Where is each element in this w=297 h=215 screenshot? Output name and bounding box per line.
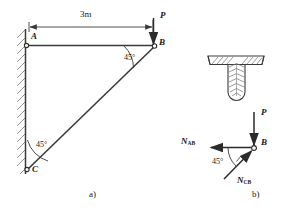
caption-b: b) — [252, 190, 260, 199]
joint-a-pin — [24, 43, 28, 47]
engineering-figure: 3m A B C P 45° 45° a) P B NAB NCB 45° b) — [0, 0, 297, 215]
point-b-label: B — [159, 38, 165, 47]
fbd-force-ncb-subscript: CB — [244, 179, 252, 185]
fbd-load-label-p: P — [261, 108, 267, 117]
diagram-b-section — [208, 56, 264, 101]
angle-label-b: 45° — [124, 54, 135, 62]
dimension-label-3m: 3m — [80, 10, 92, 19]
wall-support-hatch — [17, 30, 25, 174]
fbd-joint-b — [252, 146, 257, 151]
figure-canvas — [0, 0, 297, 215]
fbd-force-label-ncb: NCB — [237, 176, 251, 186]
point-c-label: C — [32, 165, 38, 174]
angle-label-c: 45° — [36, 141, 47, 149]
caption-a: a) — [89, 190, 96, 199]
member-cb — [27, 46, 155, 170]
dimension-line-3m — [29, 20, 153, 34]
fbd-angle-leader — [237, 157, 241, 162]
diagram-b-fbd — [211, 112, 256, 179]
fbd-angle-label: 45° — [212, 158, 223, 166]
fbd-angle-arc — [228, 148, 236, 166]
diagram-a — [17, 18, 157, 174]
fbd-joint-label-b: B — [261, 138, 267, 147]
fbd-force-label-nab: NAB — [181, 137, 195, 147]
point-a-label: A — [31, 32, 37, 41]
fbd-force-nab-subscript: AB — [188, 140, 196, 146]
load-label-p-a: P — [160, 11, 166, 20]
joint-c-pin — [25, 167, 29, 171]
joint-b-pin — [152, 44, 156, 48]
